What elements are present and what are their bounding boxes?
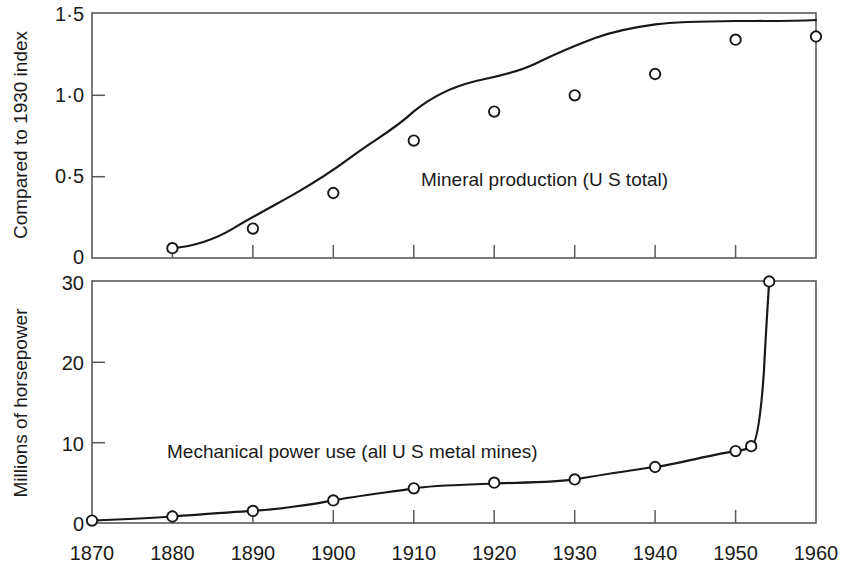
chart-canvas: Compared to 1930 index 1·5 1·0 0·5 0	[0, 0, 845, 569]
x-tick-label-1950: 1950	[713, 542, 758, 564]
data-point-bottom-1870	[87, 515, 97, 525]
y-tick-label-bottom-10: 10	[62, 433, 84, 455]
data-point-top-1910	[409, 135, 419, 145]
x-tick-label-1900: 1900	[311, 542, 356, 564]
data-point-top-1900	[328, 188, 338, 198]
data-point-bottom-1930	[570, 474, 580, 484]
panel-mechanical-power-use: Millions of horsepower 30 20 10 0	[10, 272, 838, 564]
data-point-top-1930	[570, 90, 580, 100]
y-tick-label-top-0_5: 0·5	[55, 165, 84, 187]
panel-mineral-production: Compared to 1930 index 1·5 1·0 0·5 0	[10, 3, 821, 268]
figure-two-panel-line-charts: Compared to 1930 index 1·5 1·0 0·5 0	[0, 0, 845, 569]
y-axis-title-bottom: Millions of horsepower	[10, 308, 31, 498]
y-tick-label-bottom-0: 0	[73, 513, 84, 535]
x-tick-label-1940: 1940	[633, 542, 678, 564]
plot-frame-top	[92, 13, 816, 258]
data-point-bottom-1952	[746, 441, 756, 451]
x-tick-label-1910: 1910	[392, 542, 437, 564]
y-tick-label-top-0: 0	[73, 246, 84, 268]
y-tick-label-bottom-20: 20	[62, 352, 84, 374]
data-point-top-1890	[248, 223, 258, 233]
x-tick-label-1890: 1890	[231, 542, 276, 564]
data-point-bottom-1940	[650, 462, 660, 472]
x-tick-label-1930: 1930	[552, 542, 597, 564]
data-point-bottom-1950	[730, 446, 740, 456]
x-tick-label-1960: 1960	[794, 542, 839, 564]
data-line-mineral-production	[172, 20, 816, 248]
y-tick-label-top-1_0: 1·0	[55, 84, 84, 106]
series-label-mineral-production: Mineral production (U S total)	[421, 169, 668, 190]
data-point-bottom-1880	[167, 511, 177, 521]
data-line-mechanical-power-use	[92, 282, 769, 521]
data-point-bottom-1910	[409, 483, 419, 493]
x-tick-label-1920: 1920	[472, 542, 517, 564]
data-point-top-1880	[167, 243, 177, 253]
data-point-top-1940	[650, 69, 660, 79]
data-point-top-1920	[489, 106, 499, 116]
data-point-bottom-1890	[248, 506, 258, 516]
data-point-top-1950	[730, 35, 740, 45]
data-point-top-1960	[811, 31, 821, 41]
y-tick-label-top-1_5: 1·5	[55, 3, 84, 25]
data-point-bottom-1955	[764, 276, 774, 286]
plot-frame-bottom	[92, 281, 816, 523]
y-axis-title-top: Compared to 1930 index	[10, 30, 31, 239]
x-tick-label-1880: 1880	[150, 542, 195, 564]
y-tick-label-bottom-30: 30	[62, 272, 84, 294]
series-label-mechanical-power-use: Mechanical power use (all U S metal mine…	[167, 441, 538, 462]
x-tick-label-1870: 1870	[70, 542, 115, 564]
data-point-bottom-1900	[328, 495, 338, 505]
data-point-bottom-1920	[489, 478, 499, 488]
